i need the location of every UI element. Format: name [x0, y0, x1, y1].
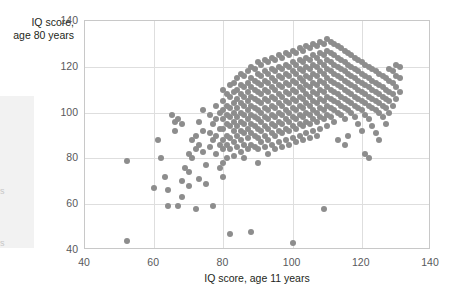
x-tick-label: 120 [341, 257, 381, 268]
x-tick-label: 60 [133, 257, 173, 268]
scatter-plot-figure: s s IQ score, age 80 years 4060801001201… [0, 0, 449, 294]
x-tick-label: 40 [64, 257, 104, 268]
x-tick-label: 100 [272, 257, 312, 268]
x-tick-label: 80 [202, 257, 242, 268]
x-axis-label: IQ score, age 11 years [84, 272, 430, 284]
x-tick-label: 140 [410, 257, 449, 268]
x-axis-ticks: 406080100120140 [0, 0, 449, 294]
